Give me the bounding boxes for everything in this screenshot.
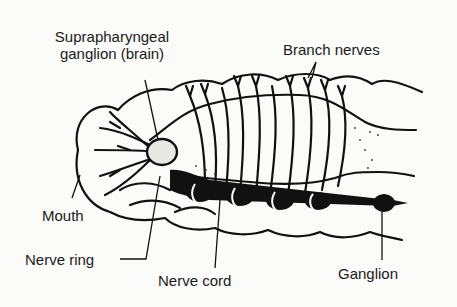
brain-ganglion bbox=[147, 139, 177, 165]
body-outline bbox=[77, 74, 422, 150]
label-nerve-cord: Nerve cord bbox=[158, 272, 231, 289]
label-brain: Suprapharyngeal ganglion (brain) bbox=[52, 28, 172, 62]
label-mouth: Mouth bbox=[42, 207, 84, 224]
label-ganglion: Ganglion bbox=[338, 265, 398, 282]
label-branch-nerves: Branch nerves bbox=[283, 41, 380, 58]
label-brain-line2: ganglion (brain) bbox=[52, 45, 172, 62]
mouth-leader bbox=[72, 175, 80, 198]
label-brain-line1: Suprapharyngeal bbox=[52, 28, 172, 45]
diagram-canvas: Suprapharyngeal ganglion (brain) Branch … bbox=[0, 0, 457, 307]
nerve-cord-leader bbox=[215, 200, 220, 268]
label-nerve-ring: Nerve ring bbox=[25, 251, 94, 268]
gut-upper bbox=[150, 95, 416, 140]
